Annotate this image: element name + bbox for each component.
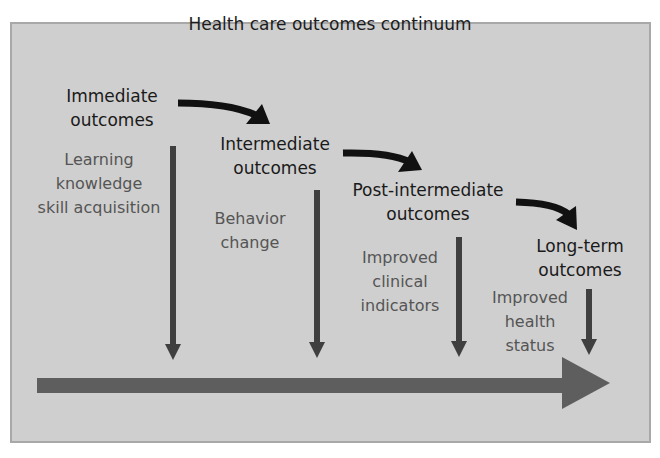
down-arrow-icon	[451, 237, 467, 357]
stage-desc-immediate: Learning knowledge skill acquisition	[26, 148, 172, 220]
stage-desc-intermediate: Behavior change	[200, 207, 300, 255]
timeline-arrow-icon	[37, 357, 610, 409]
stage-desc-long-term: Improved health status	[478, 286, 582, 358]
down-arrow-icon	[309, 190, 325, 358]
down-arrow-icon	[581, 289, 597, 355]
diagram-title: Health care outcomes continuum	[170, 12, 490, 36]
curved-arrow-icon	[343, 151, 422, 172]
stage-label-intermediate: Intermediate outcomes	[205, 132, 345, 180]
stage-label-long-term: Long-term outcomes	[525, 234, 635, 282]
arrows-layer	[0, 0, 660, 458]
stage-label-post-intermediate: Post-intermediate outcomes	[340, 178, 516, 226]
stage-desc-post-intermediate: Improved clinical indicators	[348, 246, 452, 318]
stage-label-immediate: Immediate outcomes	[52, 84, 172, 132]
curved-arrow-icon	[178, 103, 270, 124]
curved-arrow-icon	[516, 202, 577, 230]
